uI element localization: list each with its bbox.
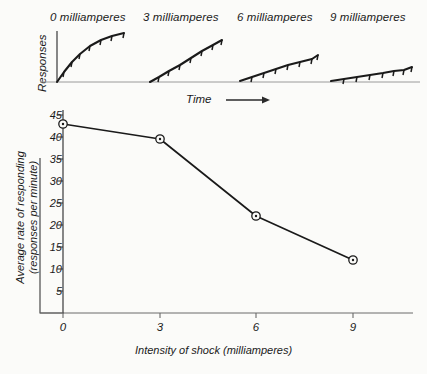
- figure-container: Responses 0 milliamperes 3 milliamperes …: [0, 0, 427, 374]
- y-axis-ticks: [57, 115, 63, 291]
- data-point-marker: [349, 256, 357, 264]
- data-line: [63, 124, 353, 260]
- data-point-marker: [156, 135, 164, 143]
- data-point-marker: [59, 120, 67, 128]
- rate-vs-intensity-svg: [0, 0, 427, 374]
- data-point-marker: [252, 212, 260, 220]
- x-axis-ticks: [63, 313, 353, 318]
